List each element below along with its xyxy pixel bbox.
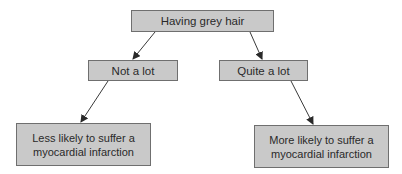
- node-having-grey-hair: Having grey hair: [131, 10, 274, 32]
- node-label: Quite a lot: [237, 64, 289, 78]
- node-less-likely-mi: Less likely to suffer a myocardial infar…: [16, 123, 151, 166]
- node-label: Not a lot: [112, 64, 155, 78]
- node-label-line1: Less likely to suffer a: [32, 131, 135, 145]
- node-label: Having grey hair: [161, 14, 245, 28]
- node-label-line2: myocardial infarction: [32, 145, 135, 159]
- edge-left-to-bottom-left-arrow: [81, 81, 108, 122]
- node-quite-a-lot: Quite a lot: [219, 60, 308, 81]
- node-not-a-lot: Not a lot: [88, 60, 178, 81]
- node-label-line2: myocardial infarction: [269, 147, 373, 161]
- edge-right-to-bottom-right-arrow: [291, 81, 313, 124]
- edge-root-to-right-arrow: [250, 32, 262, 59]
- edge-root-to-left-arrow: [133, 32, 155, 59]
- node-label-line1: More likely to suffer a: [269, 133, 373, 147]
- node-more-likely-mi: More likely to suffer a myocardial infar…: [254, 125, 389, 168]
- diagram-canvas: Having grey hair Not a lot Quite a lot L…: [0, 0, 402, 174]
